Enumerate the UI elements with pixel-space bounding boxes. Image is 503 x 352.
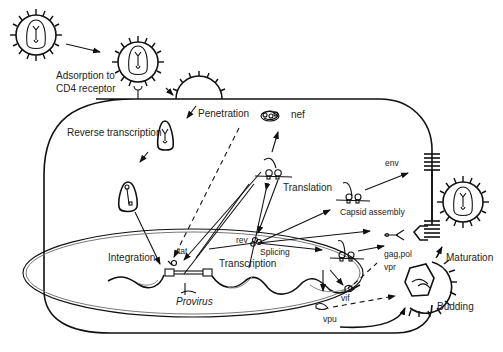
- maturation-arrow: [436, 247, 442, 258]
- vpr-label: vpr: [384, 262, 396, 272]
- integration-label: Integration: [108, 252, 155, 263]
- mature-virion-icon: [437, 176, 489, 228]
- approach-arrow: [66, 44, 100, 52]
- ribosome-capsid-assembly-icon: [336, 183, 370, 203]
- capsid-assembly-label: Capsid assembly: [340, 207, 405, 217]
- ribosome-translation-icon: [255, 158, 292, 179]
- to-nef-arrow: [272, 132, 278, 152]
- cd4-receptor-icon: [134, 86, 142, 99]
- tat-label: tat: [178, 246, 188, 256]
- vpu-protein-icon: [316, 304, 328, 310]
- splicing-in-line: [209, 243, 254, 249]
- budding-label: Budding: [437, 301, 474, 312]
- nef-label: nef: [291, 109, 305, 120]
- translation-label: Translation: [283, 182, 332, 193]
- nef-dashed-arrow: [174, 128, 239, 257]
- reverse-transcription-arrow: [140, 152, 148, 162]
- rev-return-arrow: [258, 180, 278, 233]
- reverse-transcription-label: Reverse transcription: [67, 127, 161, 138]
- penetration-bud-icon: [173, 71, 225, 99]
- budding-path-arrow: [340, 308, 405, 327]
- adsorption-label-1: Adsorption to: [56, 70, 115, 81]
- fusion-arrow: [166, 88, 173, 95]
- nef-protein-icon: [261, 111, 279, 121]
- penetration-arrow: [187, 106, 196, 118]
- vif-label: vif: [341, 293, 350, 303]
- to-env-arrow: [365, 173, 408, 190]
- transcription-label: Transcription: [219, 258, 276, 269]
- vpu-label: vpu: [323, 314, 337, 324]
- to-gagpol-membrane-arrow: [358, 246, 384, 251]
- maturation-label: Maturation: [446, 252, 493, 263]
- adsorption-label-2: CD4 receptor: [56, 83, 116, 94]
- env-label: env: [385, 158, 399, 168]
- to-vif-arrow: [330, 270, 343, 285]
- binding-virion-icon: [112, 36, 164, 86]
- dna-capsid-icon: [119, 182, 137, 212]
- free-virion-icon: [10, 9, 62, 61]
- gag-pol-complex-icon: [384, 226, 428, 240]
- hiv-replication-diagram: Adsorption to CD4 receptor Penetration R…: [0, 0, 503, 352]
- splicing-label: Splicing: [260, 247, 290, 257]
- provirus-label: Provirus: [176, 296, 213, 307]
- penetration-label: Penetration: [198, 108, 249, 119]
- gag-pol-label: gag,pol: [384, 249, 412, 259]
